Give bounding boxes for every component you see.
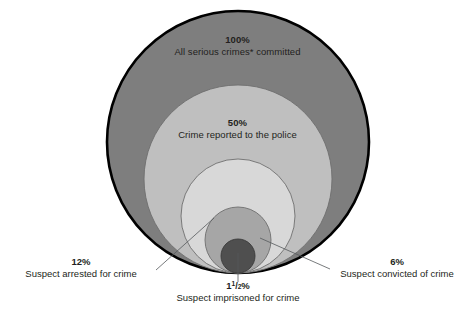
callout-suspect-arrested-percent: 12% xyxy=(14,256,148,268)
callout-suspect-convicted-percent: 6% xyxy=(327,256,467,268)
callout-suspect-imprisoned-description: Suspect imprisoned for crime xyxy=(163,292,313,304)
callout-suspect-convicted: 6% Suspect convicted of crime xyxy=(327,256,467,280)
callout-suspect-arrested-description: Suspect arrested for crime xyxy=(14,268,148,280)
callout-suspect-convicted-description: Suspect convicted of crime xyxy=(327,268,467,280)
crime-funnel-figure: 100% All serious crimes* committed 50% C… xyxy=(0,0,475,316)
callout-suspect-arrested: 12% Suspect arrested for crime xyxy=(14,256,148,280)
callout-suspect-imprisoned: 11/2% Suspect imprisoned for crime xyxy=(163,280,313,304)
imprisoned-percent-sign: % xyxy=(241,280,249,291)
callout-suspect-imprisoned-percent: 11/2% xyxy=(163,280,313,292)
